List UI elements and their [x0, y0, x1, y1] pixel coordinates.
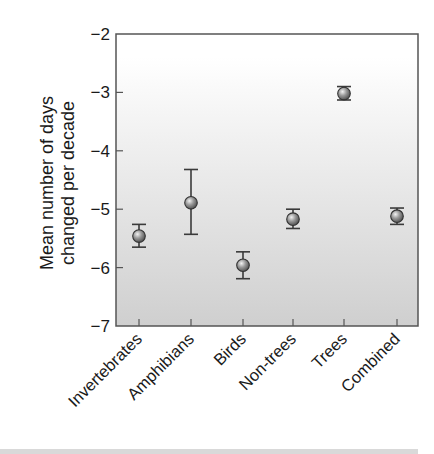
- y-tick-label: −2: [91, 25, 110, 44]
- x-category-label: Birds: [210, 329, 249, 368]
- marker-circle: [287, 213, 300, 226]
- marker-circle: [391, 210, 404, 223]
- marker-circle: [185, 196, 198, 209]
- x-axis: InvertebratesAmphibiansBirdsNon-treesTre…: [64, 319, 403, 410]
- y-axis-title: Mean number of dayschanged per decade: [37, 96, 78, 270]
- plot-area: [116, 34, 418, 326]
- y-axis-title-line: Mean number of days: [37, 96, 57, 270]
- plot-frame: [116, 34, 418, 326]
- y-tick-label: −3: [91, 83, 110, 102]
- x-category-label: Trees: [308, 329, 350, 371]
- y-tick-label: −5: [91, 200, 110, 219]
- y-tick-label: −6: [91, 259, 110, 278]
- y-axis-title-line: changed per decade: [58, 101, 78, 265]
- marker-circle: [237, 259, 250, 272]
- marker-circle: [338, 87, 351, 100]
- marker-circle: [133, 230, 146, 243]
- y-tick-label: −4: [91, 142, 110, 161]
- chart: −2−3−4−5−6−7 Mean number of dayschanged …: [0, 0, 434, 454]
- y-tick-label: −7: [91, 317, 110, 336]
- bottom-divider-bar: [0, 449, 418, 454]
